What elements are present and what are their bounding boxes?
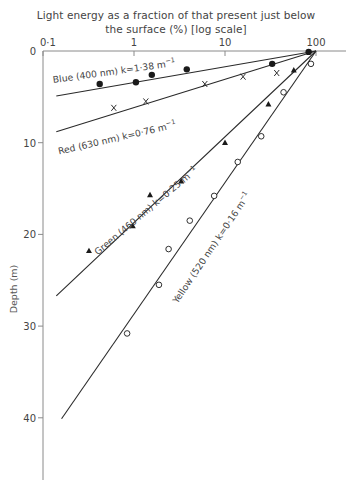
y-tick-label: 20 [23,229,36,240]
fit-line-yellow [62,51,316,419]
x-tick-label: 100 [306,37,325,48]
green-point-marker [265,101,271,106]
y-tick-label: 0 [30,46,36,57]
yellow-point-marker [308,61,314,67]
series-labels: Blue (400 nm) k=1·38 m−1Red (630 nm) k=0… [52,56,253,306]
yellow-point-marker [187,218,193,224]
green-point-marker [147,192,153,197]
x-tick-label: 1 [131,37,137,48]
series-label-red: Red (630 nm) k=0·76 m−1 [57,118,177,157]
green-point-marker [222,140,228,145]
red-point-marker [111,105,116,111]
yellow-point-marker [156,282,162,288]
chart-axes: 0·1110100010203040 [23,37,346,480]
series-label-blue: Blue (400 nm) k=1·38 m−1 [52,56,176,85]
blue-point-marker [149,72,155,78]
y-tick-label: 40 [23,413,36,424]
yellow-point-marker [258,133,264,139]
blue-point-marker [133,79,139,85]
blue-point-marker [184,66,190,72]
blue-point-marker [97,81,103,87]
fit-line-red [56,51,316,132]
red-point-marker [274,70,279,76]
depth-light-chart: 0·1110100010203040 Blue (400 nm) k=1·38 … [0,0,352,486]
yellow-point-marker [166,246,172,252]
data-markers [86,49,314,337]
yellow-point-marker [124,331,130,337]
x-tick-label: 10 [219,37,232,48]
yellow-point-marker [281,89,287,95]
blue-point-marker [305,49,311,55]
y-tick-label: 30 [23,321,36,332]
blue-point-marker [269,61,275,67]
yellow-point-marker [211,193,217,199]
red-point-marker [241,74,246,80]
series-label-yellow: Yellow (520 nm) k=0·16 m−1 [169,190,253,307]
y-tick-label: 10 [23,138,36,149]
yellow-point-marker [235,159,241,165]
x-tick-label: 0·1 [40,37,56,48]
y-axis-label: Depth (m) [8,265,19,314]
fit-lines [56,51,316,419]
